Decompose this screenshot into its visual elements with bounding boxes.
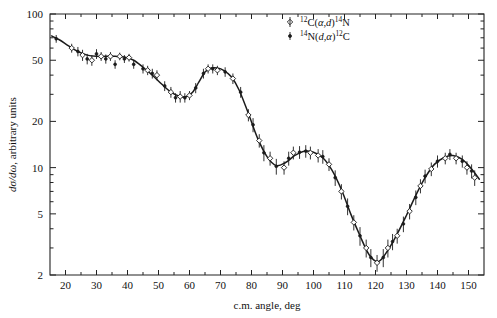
data-point (461, 155, 464, 167)
filled-point-marker (142, 67, 145, 70)
filled-point-marker (470, 170, 473, 173)
x-tick-label: 70 (215, 279, 227, 291)
x-tick-label: 90 (277, 279, 289, 291)
data-point (126, 54, 131, 62)
data-point (359, 227, 362, 246)
y-tick-label: 10 (32, 162, 44, 174)
x-axis-title: c.m. angle, deg (234, 299, 301, 311)
data-point (315, 149, 320, 162)
data-point (436, 155, 439, 167)
filled-point-marker (321, 155, 324, 158)
filled-point-marker (211, 67, 214, 70)
filled-point-marker (183, 96, 186, 99)
y-tick-label: 50 (32, 54, 44, 66)
filled-point-marker (114, 63, 117, 66)
figure-root: 2030405060708090100110120130140150 10050… (0, 0, 497, 318)
data-point (263, 145, 266, 161)
data-point (391, 234, 394, 250)
data-point (211, 64, 214, 73)
x-tick-label: 50 (153, 279, 165, 291)
y-axis-title: dσ/dω, arbitrary units (6, 97, 18, 192)
data-point (95, 49, 98, 59)
x-tick-label: 40 (122, 279, 134, 291)
x-tick-label: 80 (246, 279, 258, 291)
data-point (69, 44, 74, 53)
data-point (178, 91, 183, 103)
data-point (275, 159, 278, 175)
y-tick-label: 2 (38, 269, 44, 281)
x-axis-tick-labels: 2030405060708090100110120130140150 (60, 279, 477, 291)
legend-label: 12C(α,d)14N (300, 15, 350, 29)
filled-point-marker (151, 72, 154, 75)
x-tick-label: 130 (398, 279, 415, 291)
data-point (464, 161, 469, 174)
filled-point-marker (402, 223, 405, 226)
filled-point-marker (239, 91, 242, 94)
open-diamond-marker (267, 156, 272, 161)
open-diamond-marker (117, 54, 122, 59)
series-open-diamond (69, 44, 477, 272)
filled-point-marker (334, 176, 337, 179)
data-point (308, 147, 313, 160)
open-diamond-marker (108, 54, 113, 59)
filled-point-marker (263, 151, 266, 154)
filled-point-marker (298, 151, 301, 154)
y-axis-ticks (50, 14, 484, 275)
data-point (449, 149, 452, 160)
filled-point-marker (382, 256, 385, 259)
data-point (385, 240, 390, 258)
data-point (117, 53, 122, 61)
filled-point-marker (346, 205, 349, 208)
filled-point-marker (275, 165, 278, 168)
legend-entry: 12C(α,d)14N (287, 15, 350, 29)
x-tick-label: 20 (60, 279, 72, 291)
filled-point-marker (287, 157, 290, 160)
data-point (151, 69, 154, 79)
filled-point-marker (391, 240, 394, 243)
data-point (304, 145, 307, 158)
y-axis-tick-labels: 10050201052 (27, 8, 44, 281)
data-point (80, 50, 85, 61)
data-point (145, 66, 150, 75)
filled-point-marker (174, 96, 177, 99)
filled-point-marker (414, 196, 417, 199)
data-point (429, 162, 434, 176)
filled-point-marker (132, 63, 135, 66)
data-point (382, 249, 385, 267)
filled-point-marker (359, 234, 362, 237)
legend: 12C(α,d)14N14N(d,α)12C (287, 15, 350, 43)
data-point (374, 255, 379, 272)
filled-point-marker (95, 52, 98, 55)
data-point (369, 249, 372, 267)
open-diamond-marker (98, 54, 103, 59)
x-tick-label: 110 (336, 279, 353, 291)
filled-point-marker (104, 58, 107, 61)
filled-point-marker (123, 58, 126, 61)
filled-point-marker (252, 123, 255, 126)
data-point (453, 153, 458, 165)
data-point (443, 153, 448, 165)
legend-entry: 14N(d,α)12C (289, 29, 350, 43)
data-point (287, 152, 290, 166)
y-tick-label: 5 (38, 208, 44, 220)
data-point (364, 240, 369, 258)
data-point (114, 60, 117, 69)
fit-curve (52, 36, 480, 262)
plot-frame (50, 14, 484, 275)
x-tick-label: 150 (460, 279, 477, 291)
data-point (281, 161, 286, 174)
data-point (472, 170, 477, 186)
filled-point-marker (424, 175, 427, 178)
data-point (108, 52, 113, 61)
filled-point-marker (77, 50, 80, 53)
data-point (55, 35, 58, 43)
fit-curve-path (52, 36, 480, 262)
filled-point-marker (163, 85, 166, 88)
data-point (98, 52, 103, 61)
x-tick-label: 120 (367, 279, 384, 291)
open-diamond-marker (89, 58, 94, 63)
open-diamond-marker (178, 94, 183, 99)
y-axis-title-text: dσ/dω, arbitrary units (6, 97, 18, 192)
data-point (298, 146, 301, 159)
filled-point-marker (194, 87, 197, 90)
